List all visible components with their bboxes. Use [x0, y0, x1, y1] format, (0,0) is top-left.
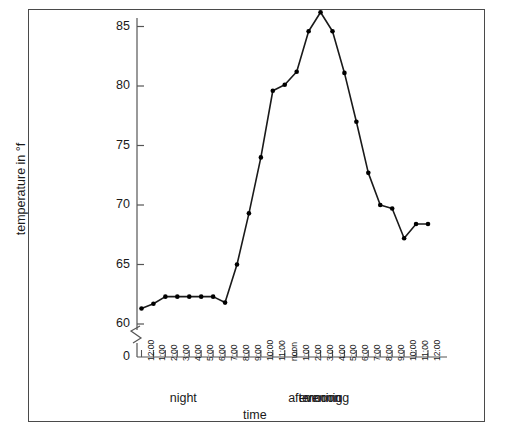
axis-break-zigzag: [131, 326, 141, 343]
data-point: [330, 29, 335, 34]
x-tick-label: 8:00: [384, 344, 394, 361]
data-point: [199, 294, 204, 299]
x-tick-label: 9:00: [253, 344, 263, 361]
x-tick-label: 5:00: [205, 344, 215, 361]
y-tick-label: 85: [100, 19, 130, 33]
y-axis-title: temperature in °f: [14, 119, 28, 259]
data-point: [235, 262, 240, 267]
x-tick-label: 2:00: [313, 344, 323, 361]
data-point: [426, 222, 431, 227]
y-tick-label: 60: [100, 316, 130, 330]
data-point: [390, 206, 395, 211]
data-point: [306, 29, 311, 34]
x-tick-label: 9:00: [396, 344, 406, 361]
y-tick-label: 65: [100, 257, 130, 271]
data-point: [151, 301, 156, 306]
y-tick-label: 80: [100, 78, 130, 92]
x-tick-label: 10:00: [408, 340, 418, 361]
temperature-series-line: [142, 12, 429, 308]
data-point: [282, 83, 287, 88]
data-point: [247, 211, 252, 216]
data-point: [259, 155, 264, 160]
x-tick-label: 1:00: [301, 344, 311, 361]
data-point: [354, 119, 359, 124]
data-point: [318, 10, 323, 15]
y-tick-label: 75: [100, 138, 130, 152]
x-tick-label: 6:00: [360, 344, 370, 361]
data-point: [223, 300, 228, 305]
data-point: [342, 71, 347, 76]
x-tick-label: 12:00: [432, 340, 442, 361]
data-point: [414, 222, 419, 227]
data-point: [402, 236, 407, 241]
period-label-evening: evening: [261, 391, 381, 405]
x-tick-label: 2:00: [169, 344, 179, 361]
data-point: [271, 88, 276, 93]
x-tick-label: 10:00: [265, 340, 275, 361]
data-point: [163, 294, 168, 299]
x-tick-label: 1:00: [157, 344, 167, 361]
x-tick-label: 6:00: [217, 344, 227, 361]
data-point: [366, 171, 371, 176]
x-tick-label: 3:00: [325, 344, 335, 361]
data-point: [211, 294, 216, 299]
x-tick-label: noon: [289, 342, 299, 361]
x-tick-label: 8:00: [241, 344, 251, 361]
x-tick-label: 12:00: [146, 340, 156, 361]
figure-container: temperature in °f time 0606570758085 12:…: [0, 0, 515, 437]
data-point: [294, 69, 299, 74]
line-chart-canvas: [0, 0, 515, 437]
x-tick-label: 7:00: [372, 344, 382, 361]
data-point: [175, 294, 180, 299]
x-tick-label: 11:00: [420, 340, 430, 361]
x-tick-label: 4:00: [337, 344, 347, 361]
x-tick-label: 4:00: [193, 344, 203, 361]
x-tick-label: 3:00: [181, 344, 191, 361]
data-point: [378, 203, 383, 208]
axes-group: [131, 18, 447, 357]
data-point: [139, 306, 144, 311]
y-tick-label: 0: [100, 349, 130, 363]
x-tick-label: 11:00: [277, 340, 287, 361]
data-point: [187, 294, 192, 299]
x-tick-label: 7:00: [229, 344, 239, 361]
y-axis-ticks: [137, 27, 144, 325]
x-tick-label: 5:00: [348, 344, 358, 361]
y-tick-label: 70: [100, 197, 130, 211]
period-label-night: night: [123, 391, 243, 405]
temperature-series-markers: [139, 10, 430, 311]
x-axis-title: time: [243, 408, 267, 422]
